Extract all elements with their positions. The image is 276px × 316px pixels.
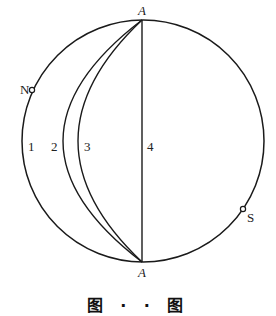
label-circle-3: 3 bbox=[84, 139, 91, 154]
pole-n-marker bbox=[29, 87, 34, 92]
pole-s-marker bbox=[240, 206, 245, 211]
label-s: S bbox=[247, 210, 254, 225]
label-circle-4: 4 bbox=[147, 139, 154, 154]
label-n: N bbox=[20, 82, 30, 97]
label-circle-1: 1 bbox=[28, 139, 35, 154]
label-bottom-a: A bbox=[137, 265, 146, 280]
primitive-circle bbox=[22, 20, 264, 262]
great-circle-2 bbox=[63, 20, 142, 262]
figure-caption: 图 · · 图 bbox=[0, 292, 276, 316]
label-circle-2: 2 bbox=[51, 139, 58, 154]
label-top-a: A bbox=[137, 3, 146, 18]
